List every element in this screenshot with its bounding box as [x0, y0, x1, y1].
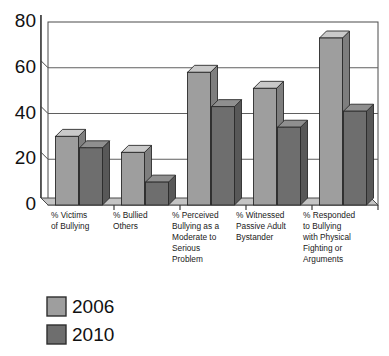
legend-item-2010[interactable]: 2010	[47, 324, 114, 345]
bar-side-face	[301, 120, 308, 205]
category-label-4: % WitnessedPassive AdultBystander	[236, 210, 287, 242]
legend: 2006 2010	[47, 296, 114, 345]
bar-side-face	[103, 141, 110, 205]
y-tick-label-60: 60	[15, 56, 36, 77]
bar-chart: 80 60 40 20 0 % Victimsof Bullying% Bull…	[0, 0, 389, 356]
category-label-1: % Victimsof Bullying	[51, 210, 90, 231]
chart-canvas: 80 60 40 20 0 % Victimsof Bullying% Bull…	[0, 0, 389, 356]
y-axis-labels: 80 60 40 20 0	[15, 10, 36, 214]
bar-front-face	[254, 88, 277, 205]
category-labels: % Victimsof Bullying% BulliedOthers% Per…	[51, 210, 356, 264]
bar-front-face	[320, 38, 343, 205]
y-tick-label-40: 40	[15, 102, 36, 123]
legend-swatch-2006	[47, 297, 66, 316]
y-tick-label-20: 20	[15, 147, 36, 168]
legend-label-2006: 2006	[72, 296, 114, 317]
category-label-3: % PerceivedBullying as aModerate toSerio…	[172, 210, 219, 264]
y-tick-label-0: 0	[25, 193, 36, 214]
bar-front-face	[188, 72, 211, 205]
legend-item-2006[interactable]: 2006	[47, 296, 114, 317]
bar-2010-group-2	[146, 175, 176, 205]
bar-front-face	[80, 148, 103, 205]
bar-2010-group-5	[344, 104, 374, 205]
bar-side-face	[367, 104, 374, 205]
bar-2010-group-3	[212, 100, 242, 205]
bar-2010-group-4	[278, 120, 308, 205]
legend-swatch-2010	[47, 325, 66, 344]
bar-front-face	[344, 111, 367, 205]
legend-label-2010: 2010	[72, 324, 114, 345]
category-label-2: % BulliedOthers	[113, 210, 148, 231]
bar-front-face	[278, 127, 301, 205]
bar-front-face	[122, 152, 145, 205]
bar-front-face	[146, 182, 169, 205]
y-tick-label-80: 80	[15, 10, 36, 31]
bar-front-face	[56, 136, 79, 205]
category-label-5: % Respondedto Bullyingwith PhysicalFight…	[302, 210, 356, 264]
bar-side-face	[235, 100, 242, 205]
bar-front-face	[212, 107, 235, 205]
bar-2010-group-1	[80, 141, 110, 205]
